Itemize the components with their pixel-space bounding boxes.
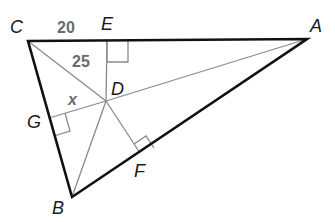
right-angle-marker-F <box>134 136 154 148</box>
triangle-diagram: C A B E D F G 20 25 x <box>0 0 335 222</box>
point-label-F: F <box>134 161 146 181</box>
segment-DA <box>106 39 307 101</box>
measure-label-DC: 25 <box>72 53 90 70</box>
point-label-E: E <box>101 14 114 34</box>
right-angle-marker-E <box>107 41 128 62</box>
triangle-sides <box>28 39 307 197</box>
measure-label-x: x <box>67 91 78 108</box>
measure-label-CE: 20 <box>57 19 75 36</box>
segment-DB <box>72 101 106 197</box>
segment-DG <box>49 101 106 118</box>
vertex-label-A: A <box>309 16 322 36</box>
segment-DF <box>106 101 140 153</box>
point-label-G: G <box>27 112 41 132</box>
vertex-label-C: C <box>10 17 24 37</box>
vertex-label-B: B <box>52 198 64 218</box>
triangle-ABC <box>28 39 307 197</box>
point-label-D: D <box>111 79 124 99</box>
segment-DC <box>28 41 106 101</box>
inner-segments <box>28 39 307 197</box>
